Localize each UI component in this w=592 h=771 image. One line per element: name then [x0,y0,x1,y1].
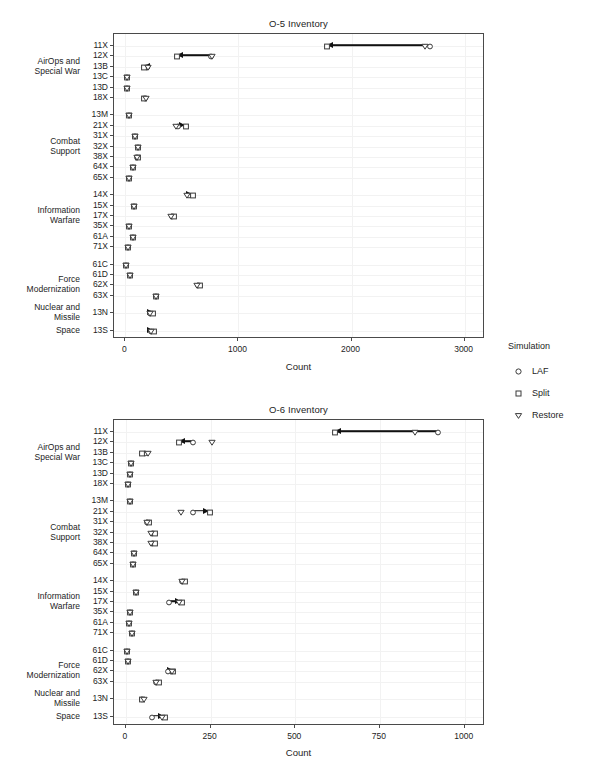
x-gridline [380,420,381,724]
y-axis-group-label-force: Force Modernization [0,660,80,680]
change-arrow-line [335,430,438,432]
y-gridline [114,612,483,613]
y-axis-tick-label: 13S [82,711,108,720]
legend: Simulation LAF Split Restore [508,341,592,426]
point-marker-restore [123,78,131,96]
y-axis-tick [110,542,113,543]
point-marker-restore [140,689,148,707]
y-axis-tick [110,55,113,56]
y-axis-tick-label: 61D [82,270,108,279]
y-gridline [114,717,483,718]
point-marker-restore [125,105,133,123]
y-axis-tick [110,591,113,592]
y-gridline [114,553,483,554]
x-axis-tick [379,725,380,728]
y-axis-tick-label: 61A [82,231,108,240]
y-axis-tick-label: 62X [82,666,108,675]
y-axis-tick [110,716,113,717]
y-gridline [114,633,483,634]
point-marker-restore [147,321,155,339]
y-axis-tick-label: 61C [82,645,108,654]
y-axis-tick [110,681,113,682]
x-axis-tick-label: 0 [122,344,127,354]
y-axis-tick-label: 21X [82,506,108,515]
y-axis-tick [110,500,113,501]
y-gridline [114,136,483,137]
y-gridline [114,543,483,544]
y-gridline [114,195,483,196]
x-axis-tick-label: 0 [122,731,127,741]
y-axis-tick [110,125,113,126]
point-marker-restore [125,168,133,186]
y-axis-tick [110,97,113,98]
y-gridline [114,522,483,523]
chart-title-o6: O-6 Inventory [113,404,484,415]
y-axis-tick-label: 63X [82,290,108,299]
y-axis-group-label-combat: Combat Support [0,136,80,156]
y-gridline [114,77,483,78]
y-axis-tick-label: 18X [82,479,108,488]
point-marker-split [182,116,189,134]
y-axis-tick-label: 17X [82,597,108,606]
point-marker-restore [124,474,132,492]
y-axis-tick-label: 32X [82,141,108,150]
y-axis-tick-label: 65X [82,172,108,181]
point-marker-restore [177,502,185,520]
x-axis-tick [124,338,125,341]
point-marker-restore [152,286,160,304]
point-marker-restore [411,422,419,440]
circle-open-icon [508,367,528,376]
y-axis-tick-label: 13N [82,694,108,703]
triangle-down-open-icon [508,411,528,420]
legend-label-split: Split [528,388,550,398]
x-gridline [238,34,239,337]
y-axis-tick [110,236,113,237]
legend-item-split[interactable]: Split [508,382,592,404]
y-axis-tick [110,274,113,275]
y-axis-tick-label: 32X [82,527,108,536]
x-axis-tick [210,725,211,728]
y-axis-tick [110,76,113,77]
y-gridline [114,432,483,433]
change-arrow-line [327,44,425,46]
point-marker-restore [124,651,132,669]
y-axis-tick-label: 13D [82,468,108,477]
x-axis-tick-label: 1000 [228,344,247,354]
y-axis-tick [110,295,113,296]
y-axis-tick-label: 13B [82,61,108,70]
y-gridline [114,147,483,148]
y-axis-tick [110,632,113,633]
y-gridline [114,67,483,68]
y-axis-tick [110,177,113,178]
x-axis-tick-label: 250 [202,731,216,741]
y-axis-tick [110,462,113,463]
y-axis-tick-label: 13M [82,496,108,505]
point-marker-laf [189,432,196,450]
point-marker-restore [158,707,166,725]
y-axis-tick [110,670,113,671]
y-axis-tick-label: 71X [82,628,108,637]
y-gridline [114,512,483,513]
y-gridline [114,442,483,443]
x-axis-title-o6: Count [113,747,484,758]
y-axis-group-label-space: Space [0,711,80,721]
y-gridline [114,157,483,158]
point-marker-restore [126,491,134,509]
point-marker-laf [165,592,172,610]
legend-item-laf[interactable]: LAF [508,360,592,382]
point-marker-split [323,36,330,54]
legend-item-restore[interactable]: Restore [508,404,592,426]
point-marker-restore [142,88,150,106]
y-axis-tick-label: 18X [82,93,108,102]
point-marker-restore [132,582,140,600]
y-axis-tick [110,650,113,651]
point-marker-split [173,46,180,64]
x-gridline [211,420,212,724]
y-axis-group-label-airops: AirOps and Special War [0,56,80,76]
y-axis-tick [110,580,113,581]
point-marker-restore [183,185,191,203]
y-axis-group-label-space: Space [0,325,80,335]
y-axis-tick-label: 14X [82,190,108,199]
y-gridline [114,623,483,624]
y-axis-tick-label: 31X [82,131,108,140]
